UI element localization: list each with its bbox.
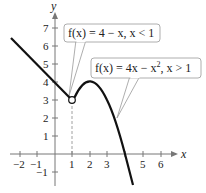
open-endpoint-marker (69, 97, 76, 104)
y-tick-label: −1 (36, 166, 48, 178)
piecewise-function-graph: x y −2 −1 1 2 3 5 6 −1 1 2 3 4 5 (0, 0, 206, 193)
callout-2-pointer (117, 76, 140, 118)
x-tick-label: 5 (140, 158, 146, 170)
y-tick-label: 5 (43, 58, 49, 70)
callout-2: f(x) = 4x − x2, x > 1 (91, 58, 201, 118)
y-tick-labels: −1 1 2 3 4 5 6 7 (36, 22, 49, 178)
y-tick-label: 3 (43, 94, 49, 106)
y-tick-label: 1 (43, 130, 49, 142)
x-tick-label: 1 (69, 158, 75, 170)
x-axis-arrow-icon (171, 151, 178, 157)
callout-1-pointer (69, 40, 86, 96)
y-tick-label: 6 (43, 40, 49, 52)
y-tick-label: 7 (43, 22, 49, 34)
x-axis-label: x (180, 147, 187, 161)
x-tick-label: −2 (13, 158, 25, 170)
callout-2-text: f(x) = 4x − x2, x > 1 (95, 60, 191, 75)
series-linear-piece (11, 38, 70, 98)
y-tick-label: 4 (43, 76, 49, 88)
x-tick-label: 3 (104, 158, 110, 170)
x-tick-label: 2 (87, 158, 93, 170)
y-axis-arrow-icon (52, 12, 58, 19)
y-tick-label: 2 (43, 112, 49, 124)
callout-1-text: f(x) = 4 − x, x < 1 (68, 26, 154, 40)
x-tick-label: 6 (158, 158, 164, 170)
y-axis-label: y (50, 0, 57, 13)
